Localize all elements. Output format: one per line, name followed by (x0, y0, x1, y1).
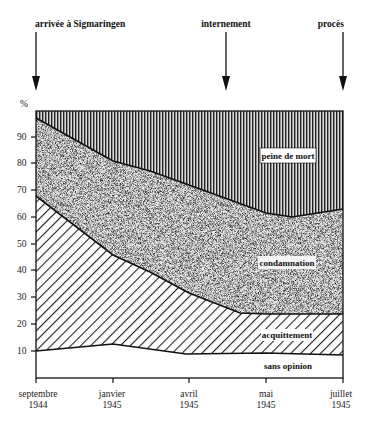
event-arrow-internement: internement (201, 19, 251, 91)
label-acquittement: acquittement (261, 329, 313, 341)
arrow-down-icon (339, 76, 347, 91)
y-axis (31, 137, 36, 351)
svg-text:1945: 1945 (332, 400, 351, 410)
event-arrow-proces: procès (318, 19, 347, 91)
svg-text:10: 10 (17, 346, 27, 356)
svg-text:avril: avril (180, 389, 198, 399)
svg-text:septembre: septembre (18, 389, 57, 399)
y-tick-labels: 90 80 70 60 50 40 30 20 10 (17, 132, 27, 356)
svg-text:90: 90 (17, 132, 27, 142)
svg-text:1945: 1945 (103, 400, 122, 410)
svg-text:acquittement: acquittement (262, 330, 313, 340)
svg-text:arrivée à Sigmaringen: arrivée à Sigmaringen (35, 19, 126, 29)
svg-text:mai: mai (259, 389, 274, 399)
svg-text:30: 30 (17, 292, 27, 302)
arrow-down-icon (222, 76, 230, 91)
svg-text:80: 80 (17, 158, 27, 168)
svg-text:juillet: juillet (329, 389, 353, 399)
label-condamnation: condamnation (258, 256, 316, 269)
label-peine-de-mort: peine de mort (260, 148, 316, 163)
stacked-area-chart: % 90 80 70 60 50 40 30 20 10 septembre 1… (0, 0, 365, 438)
event-arrow-sigmaringen: arrivée à Sigmaringen (32, 19, 126, 91)
svg-text:condamnation: condamnation (259, 258, 314, 268)
svg-text:60: 60 (17, 212, 27, 222)
svg-text:20: 20 (17, 319, 27, 329)
svg-text:janvier: janvier (98, 389, 126, 399)
svg-text:70: 70 (17, 185, 27, 195)
y-unit-label: % (20, 99, 28, 109)
label-sans-opinion: sans opinion (264, 361, 312, 371)
svg-text:40: 40 (17, 265, 27, 275)
svg-text:1944: 1944 (29, 400, 48, 410)
arrow-down-icon (32, 76, 40, 91)
svg-text:internement: internement (201, 19, 251, 29)
svg-text:1945: 1945 (257, 400, 276, 410)
svg-text:procès: procès (318, 19, 345, 29)
x-axis (36, 378, 343, 383)
svg-text:50: 50 (17, 239, 27, 249)
svg-text:sans opinion: sans opinion (264, 361, 312, 371)
svg-text:peine de mort: peine de mort (262, 151, 315, 161)
x-tick-labels: septembre 1944 janvier 1945 avril 1945 m… (18, 389, 352, 410)
svg-text:1945: 1945 (180, 400, 199, 410)
